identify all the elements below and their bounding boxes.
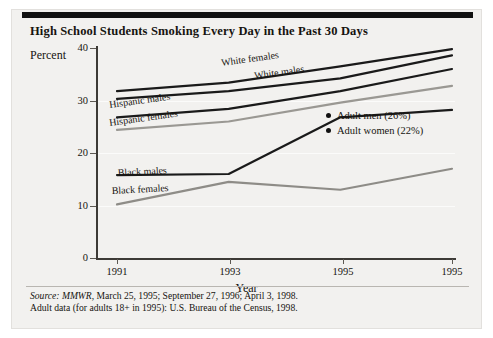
legend-label-adult-men: Adult men (26%): [337, 110, 411, 121]
legend-item-adult-women: Adult women (22%): [326, 123, 423, 138]
chart-page: High School Students Smoking Every Day i…: [0, 0, 493, 338]
footnote-source-line: Source: MMWR, March 25, 1995; September …: [30, 290, 298, 302]
footnote-source-journal: MMWR: [62, 290, 92, 301]
footnotes: Source: MMWR, March 25, 1995; September …: [30, 290, 298, 313]
legend-label-adult-women: Adult women (22%): [337, 125, 423, 136]
footnote-adult-data-line: Adult data (for adults 18+ in 1995): U.S…: [30, 302, 298, 314]
legend: Adult men (26%) Adult women (22%): [326, 108, 423, 138]
footer-divider: [26, 286, 469, 287]
footnote-source-rest: , March 25, 1995; September 27, 1996; Ap…: [92, 290, 298, 301]
bullet-dot-icon: [326, 113, 331, 118]
series-lines: [0, 0, 493, 338]
footnote-source-prefix: Source:: [30, 290, 59, 301]
bullet-dot-icon: [326, 128, 331, 133]
legend-item-adult-men: Adult men (26%): [326, 108, 423, 123]
